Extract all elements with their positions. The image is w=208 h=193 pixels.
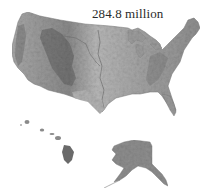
alaska [104,140,168,188]
contiguous-us [12,12,200,116]
hawaii-islands [20,120,74,164]
island-oahu [40,129,44,132]
island-molokai [50,133,55,135]
island-kauai [25,120,30,124]
island-maui [55,136,61,140]
island-niihau [20,124,22,126]
island-big-island [62,145,74,164]
us-relief-map [0,0,208,193]
